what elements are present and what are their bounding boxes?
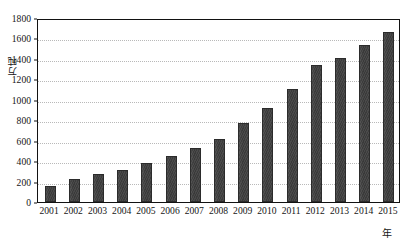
y-tick-label: 600	[17, 137, 31, 147]
bar	[69, 179, 80, 202]
x-tick-label: 2003	[88, 205, 107, 217]
x-tick-label: 2006	[161, 205, 180, 217]
bar	[93, 174, 104, 202]
x-tick-label: 2001	[40, 205, 59, 217]
x-axis-title: 年	[382, 228, 392, 240]
x-tick-label: 2010	[257, 205, 276, 217]
bar	[214, 139, 225, 202]
bar	[190, 148, 201, 202]
y-tick-label: 1200	[12, 75, 31, 85]
bars-layer	[38, 20, 399, 202]
x-tick-label: 2009	[233, 205, 252, 217]
bar	[262, 108, 273, 202]
bar	[238, 123, 249, 202]
x-tick-label: 2015	[378, 205, 397, 217]
x-tick-label: 2012	[306, 205, 325, 217]
bar	[359, 45, 370, 202]
plot-area	[37, 19, 400, 203]
bar	[311, 65, 322, 202]
y-axis: 020040060080010001200140016001800	[0, 19, 37, 203]
y-tick-label: 1800	[12, 14, 31, 24]
x-tick-label: 2005	[136, 205, 155, 217]
bar-chart: 万吨 020040060080010001200140016001800 200…	[0, 0, 413, 252]
y-tick-label: 800	[17, 116, 31, 126]
bar	[383, 32, 394, 203]
y-tick-label: 1400	[12, 55, 31, 65]
x-tick-label: 2004	[112, 205, 131, 217]
y-tick-label: 400	[17, 157, 31, 167]
bar	[141, 163, 152, 202]
x-axis: 2001200220032004200520062007200820092010…	[37, 205, 400, 221]
x-tick-label: 2007	[185, 205, 204, 217]
bar	[335, 58, 346, 202]
y-tick-label: 1000	[12, 96, 31, 106]
x-tick-label: 2011	[282, 205, 301, 217]
y-tick-label: 0	[26, 198, 31, 208]
x-tick-label: 2013	[330, 205, 349, 217]
bar	[117, 170, 128, 202]
y-tick-label: 200	[17, 178, 31, 188]
bar	[166, 156, 177, 203]
bar	[45, 186, 56, 202]
x-tick-label: 2014	[354, 205, 373, 217]
x-tick-label: 2002	[64, 205, 83, 217]
bar	[287, 89, 298, 202]
x-tick-label: 2008	[209, 205, 228, 217]
y-tick-label: 1600	[12, 34, 31, 44]
